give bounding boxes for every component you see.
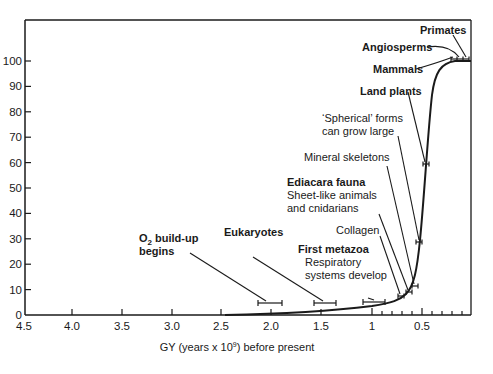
y-tick-label: 50 [9,182,22,194]
x-tick-label: 2.5 [213,320,229,332]
x-tick-label: 3.5 [114,320,130,332]
x-axis-title: GY (years x 109) before present [160,341,315,353]
label-first-metazoa: First metazoa [298,243,370,255]
x-tick-label: 3.0 [164,320,180,332]
x-tick-label: 0.5 [414,320,430,332]
y-tick-labels: 0 10 20 30 40 50 60 70 80 90 100 [3,55,22,321]
x-tick-label: 2.0 [263,320,279,332]
y-tick-label: 70 [9,131,22,143]
y-tick-label: 30 [9,233,22,245]
y-tick-label: 40 [9,207,22,219]
label-spherical-2: can grow large [322,125,394,137]
label-angiosperms: Angiosperms [362,41,432,53]
error-bar-eukaryotes [314,300,336,306]
label-collagen: Collagen [336,224,379,236]
y-tick-label: 80 [9,106,22,118]
label-o2-begins: begins [139,245,174,257]
label-ediacara-sub1: Sheet-like animals [287,189,377,201]
y-tick-label: 90 [9,80,22,92]
label-ediacara-sub2: and cnidarians [287,202,359,214]
label-mineral-skeletons: Mineral skeletons [304,151,390,163]
label-ediacara: Ediacara fauna [287,176,366,188]
evolution-diversity-chart: 0 10 20 30 40 50 60 70 80 90 100 4.5 4.0… [0,0,493,374]
label-primates: Primates [420,24,466,36]
x-tick-label: 4.5 [16,320,32,332]
y-tick-label: 10 [9,284,22,296]
label-eukaryotes: Eukaryotes [224,226,283,238]
x-tick-label: 1 [369,320,375,332]
x-tick-label: 1.5 [313,320,329,332]
y-ticks [25,61,31,290]
label-respiratory-2: systems develop [305,269,387,281]
x-tick-labels: 4.5 4.0 3.5 3.0 2.5 2.0 1.5 1 0.5 [16,320,430,332]
label-mammals: Mammals [373,63,423,75]
y-tick-label: 20 [9,258,22,270]
y-tick-label: 100 [3,55,22,67]
error-bar-o2 [258,300,282,306]
y-tick-label: 60 [9,157,22,169]
label-respiratory-1: Respiratory [305,256,362,268]
x-tick-label: 4.0 [64,320,80,332]
label-land-plants: Land plants [360,85,422,97]
label-spherical-1: ‘Spherical’ forms [322,112,403,124]
